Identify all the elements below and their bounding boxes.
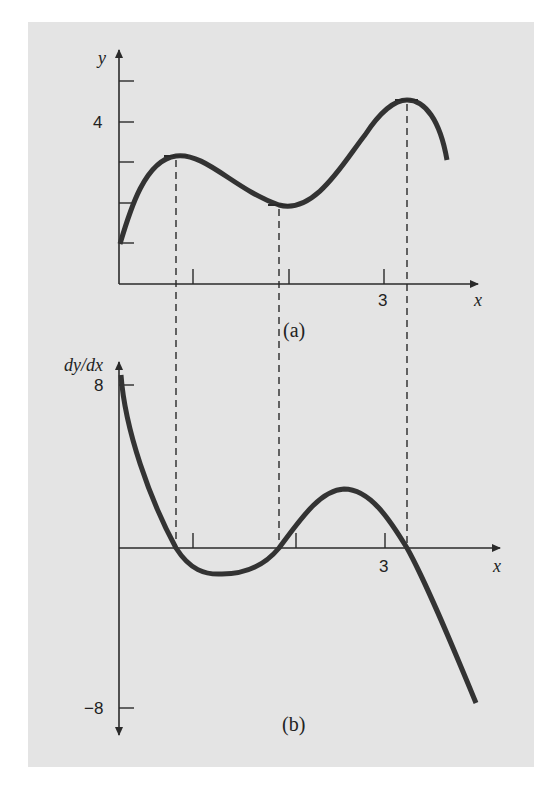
dydx-curve <box>121 375 476 703</box>
figure-svg: y 4 3 x (a) dy/dx 8 −8 3 x (b) <box>0 0 558 787</box>
y-tick-label-4: 4 <box>93 113 102 132</box>
y-curve <box>120 100 447 244</box>
plot-a: y 4 3 x (a) <box>93 48 482 342</box>
caption-a: (a) <box>283 319 305 342</box>
x-axis-label: x <box>473 290 482 310</box>
x-tick-label-3-b: 3 <box>379 557 388 576</box>
x-tick-label-3: 3 <box>378 291 387 310</box>
plot-b: dy/dx 8 −8 3 x (b) <box>64 355 501 736</box>
x-ticks <box>193 269 384 284</box>
y-tick-label-neg8: −8 <box>84 699 103 718</box>
y-axis-label: y <box>96 48 106 68</box>
y-tick-label-8: 8 <box>94 376 103 395</box>
caption-b: (b) <box>282 713 305 736</box>
dydx-axis-label: dy/dx <box>64 355 103 375</box>
x-axis-label-b: x <box>492 556 501 576</box>
